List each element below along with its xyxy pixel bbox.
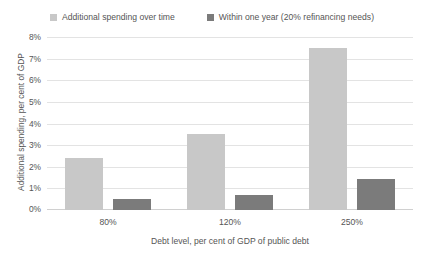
bar-groups: 80% 120% 250% <box>47 37 413 210</box>
y-axis-tick-label: 8% <box>29 32 41 42</box>
y-axis-tick-label: 6% <box>29 75 41 85</box>
bar-additional-spending-250[interactable] <box>309 48 347 210</box>
legend-item-additional-spending-over-time: Additional spending over time <box>50 13 175 22</box>
bar-additional-spending-120[interactable] <box>187 134 225 210</box>
legend-label-within-one-year: Within one year (20% refinancing needs) <box>219 13 374 22</box>
plot-area: 8% 7% 6% 5% 4% 3% 2% 1% 0% <box>47 37 413 210</box>
y-axis-tick-label: 1% <box>29 183 41 193</box>
y-axis-tick-label: 3% <box>29 140 41 150</box>
bar-additional-spending-80[interactable] <box>65 158 103 210</box>
legend-swatch-light-icon <box>50 14 57 21</box>
bar-chart: Additional spending over time Within one… <box>0 0 424 256</box>
bar-pair <box>169 37 291 210</box>
x-axis-tick-label-250: 250% <box>291 217 413 227</box>
x-axis-title: Debt level, per cent of GDP of public de… <box>44 236 416 246</box>
y-axis-tick-label: 7% <box>29 54 41 64</box>
bar-within-one-year-120[interactable] <box>235 195 273 210</box>
bar-group-80: 80% <box>47 37 169 210</box>
y-axis-title: Additional spending, per cent of GDP <box>14 24 28 220</box>
x-axis-tick-label-120: 120% <box>169 217 291 227</box>
x-axis-tick-label-80: 80% <box>47 217 169 227</box>
legend-label-additional-spending-over-time: Additional spending over time <box>62 13 175 22</box>
bar-within-one-year-250[interactable] <box>357 179 395 210</box>
bar-pair <box>291 37 413 210</box>
chart-legend: Additional spending over time Within one… <box>0 13 424 22</box>
legend-item-within-one-year: Within one year (20% refinancing needs) <box>207 13 374 22</box>
bar-within-one-year-80[interactable] <box>113 199 151 210</box>
y-axis-tick-label: 2% <box>29 162 41 172</box>
bar-group-120: 120% <box>169 37 291 210</box>
y-axis-tick-label: 0% <box>29 204 41 214</box>
y-axis-tick-label: 4% <box>29 119 41 129</box>
bar-pair <box>47 37 169 210</box>
bar-group-250: 250% <box>291 37 413 210</box>
y-axis-tick-label: 5% <box>29 97 41 107</box>
legend-swatch-dark-icon <box>207 14 214 21</box>
